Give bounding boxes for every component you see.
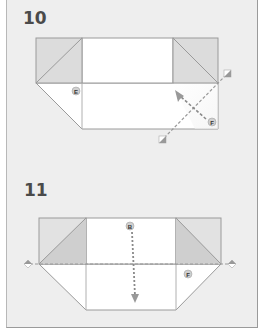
origami-diagram: E F B F	[0, 0, 267, 335]
fold-marker-icon	[228, 260, 236, 268]
fold-marker-icon	[159, 136, 166, 143]
label-e: E	[74, 89, 78, 95]
label-b: B	[128, 224, 133, 230]
fold-marker-icon	[24, 260, 32, 268]
label-f: F	[210, 120, 214, 126]
fold-marker-icon	[224, 70, 231, 77]
label-f-11: F	[186, 272, 190, 278]
step-11-figure	[24, 218, 236, 310]
step-10-figure	[36, 38, 231, 143]
